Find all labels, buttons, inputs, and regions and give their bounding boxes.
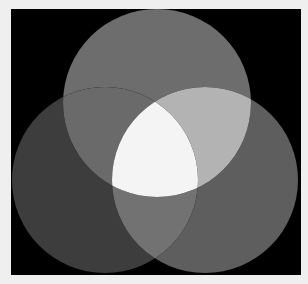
venn-svg [0, 0, 308, 284]
venn-diagram [0, 0, 308, 284]
